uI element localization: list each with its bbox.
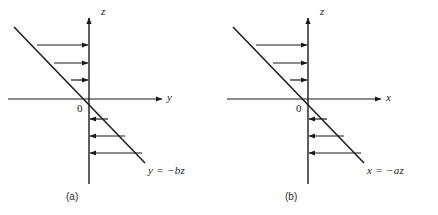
line-y-equals-minus-bz [14,27,145,163]
equation-label-y: y = −bz [148,165,185,176]
panel-b: z x 0 x = −az (b) [219,0,438,215]
figure-container: z y 0 y = −bz (a) [0,0,438,215]
x-axis-label: x [386,92,391,103]
velocity-arrows-lower [90,119,142,153]
panel-b-diagram [219,0,438,215]
velocity-arrows-lower [309,119,361,153]
z-axis-label: z [320,6,324,17]
velocity-arrows-upper [256,45,307,80]
z-axis-label: z [101,6,105,17]
panel-a-caption: (a) [66,192,78,202]
equation-label-x: x = −az [367,165,404,176]
y-axis-label: y [167,92,172,103]
origin-label: 0 [296,103,302,114]
line-x-equals-minus-az [233,27,364,163]
origin-label: 0 [77,103,83,114]
panel-b-caption: (b) [285,192,297,202]
panel-a: z y 0 y = −bz (a) [0,0,219,215]
panel-a-diagram [0,0,219,215]
velocity-arrows-upper [37,45,88,80]
